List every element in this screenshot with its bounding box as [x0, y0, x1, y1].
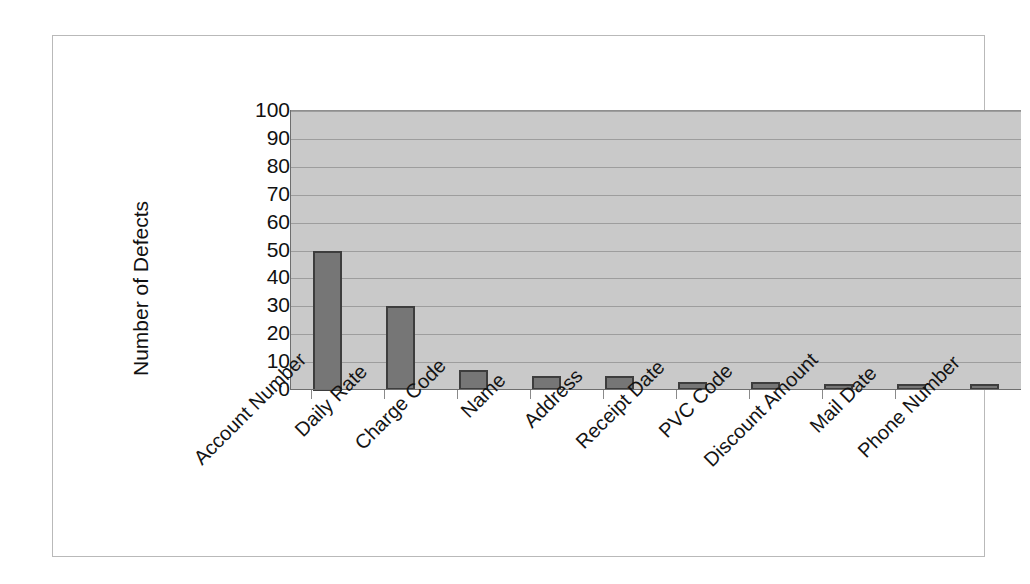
y-tick-label: 70: [244, 183, 290, 204]
x-tick-mark: [895, 390, 896, 399]
gridline: [291, 139, 1021, 140]
y-axis-ticks: 1009080706050403020100: [234, 110, 290, 390]
gridline: [291, 167, 1021, 168]
plot-area: [290, 110, 1021, 390]
x-tick-mark: [603, 390, 604, 399]
y-tick-label: 50: [244, 239, 290, 260]
x-tick-mark: [311, 390, 312, 399]
gridline: [291, 251, 1021, 252]
y-axis-line: [290, 110, 291, 390]
x-tick-mark: [822, 390, 823, 399]
x-tick-mark: [530, 390, 531, 399]
y-tick-label: 20: [244, 322, 290, 343]
y-tick-label: 30: [244, 294, 290, 315]
gridline: [291, 111, 1021, 112]
x-tick-mark: [749, 390, 750, 399]
y-tick-label: 100: [244, 99, 290, 120]
chart-frame: Number of Defects 1009080706050403020100…: [52, 35, 985, 557]
x-tick-mark: [676, 390, 677, 399]
gridline: [291, 278, 1021, 279]
gridline: [291, 223, 1021, 224]
bar-account-number: [313, 251, 342, 391]
gridline: [291, 195, 1021, 196]
y-tick-label: 90: [244, 127, 290, 148]
y-tick-label: 40: [244, 266, 290, 287]
y-tick-label: 60: [244, 211, 290, 232]
x-tick-mark: [457, 390, 458, 399]
x-tick-mark: [384, 390, 385, 399]
y-tick-label: 80: [244, 155, 290, 176]
y-axis-title: Number of Defects: [129, 76, 163, 376]
